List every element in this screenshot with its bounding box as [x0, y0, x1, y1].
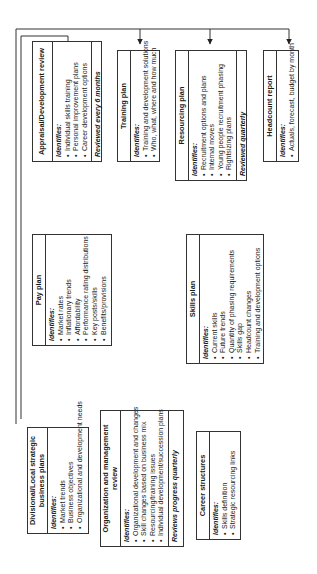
pay-plan-box: Pay plan Identifies: Market rates Inflat… [32, 234, 112, 346]
review-frequency: Reviewed quarterly [236, 51, 250, 180]
list-item: Internal moves [208, 55, 217, 176]
resourcing-plan-title: Resourcing plan [176, 51, 189, 180]
list-item: Actuals, forecast, budget by month [288, 55, 297, 157]
identifies-label: Identifies: [212, 436, 221, 535]
review-frequency: Reviews progress quarterly [168, 411, 182, 546]
org-review-title: Organization and management review [101, 411, 121, 546]
career-structures-title: Career structures [197, 432, 210, 539]
list-item: Skill changes based on business mix [140, 415, 149, 542]
review-frequency: Reviewed every 6 months [91, 42, 105, 161]
appraisal-review-title: Appraisal/Development review [33, 42, 53, 161]
list-item: Career development options [81, 46, 90, 157]
divisional-plans-box: Divisional/Local strategic business plan… [27, 427, 89, 534]
list-item: Headcount changes [245, 239, 254, 359]
divisional-plans-title: Divisional/Local strategic business plan… [28, 428, 48, 533]
headcount-report-title: Headcount report [264, 51, 277, 161]
identifies-label: Identifies: [123, 415, 132, 542]
list-item: Performance rating distributions [82, 239, 91, 341]
identifies-label: Identifies: [133, 55, 142, 157]
list-item: Skills definition [221, 436, 230, 535]
list-item: Strategic resourcing links [229, 436, 238, 535]
list-item: Rightsizing plans [225, 55, 234, 176]
identifies-label: Identifies: [202, 239, 211, 359]
career-structures-box: Career structures Identifies: Skills def… [196, 431, 241, 540]
org-review-box: Organization and management review Ident… [100, 410, 184, 547]
identifies-label: Identifies: [50, 432, 59, 529]
skills-plan-box: Skills plan Identifies: Current skills F… [186, 234, 264, 364]
list-item: Resourcing/training issues [149, 415, 158, 542]
list-item: Current skills [211, 239, 220, 359]
list-item: Quantity of phasing requirements [228, 239, 237, 359]
list-item: Organizational development and changes [132, 415, 141, 542]
list-item: Market trends [59, 432, 68, 529]
identifies-label: Identifies: [191, 55, 200, 176]
list-item: Young people recruitment phasing [217, 55, 226, 176]
list-item: Inflationary trends [65, 239, 74, 341]
list-item: Affordability [74, 239, 83, 341]
list-item: Market rates [57, 239, 66, 341]
training-plan-title: Training plan [118, 51, 131, 161]
list-item: Training and development options [254, 239, 263, 359]
list-item: Key posts/skills [91, 239, 100, 341]
identifies-label: Identifies: [48, 239, 57, 341]
hr-planning-flow-diagram: Divisional/Local strategic business plan… [0, 0, 317, 574]
appraisal-review-box: Appraisal/Development review Identifies:… [32, 41, 102, 162]
list-item: Who, what, where and how much [150, 55, 159, 157]
list-item: Individual development/succession plans [157, 415, 166, 542]
list-item: Business objectives [67, 432, 76, 529]
list-item: Benefits/provisions [100, 239, 109, 341]
list-item: Individual skills training [64, 46, 73, 157]
pay-plan-title: Pay plan [33, 235, 46, 345]
headcount-report-box: Headcount report Identifies: Actuals, fo… [263, 50, 299, 162]
skills-plan-title: Skills plan [187, 235, 200, 363]
list-item: Future trends [219, 239, 228, 359]
resourcing-plan-box: Resourcing plan Identifies: Recruitment … [175, 50, 247, 181]
list-item: Organizational and development needs [76, 432, 85, 529]
list-item: Training and development solutions [142, 55, 151, 157]
training-plan-box: Training plan Identifies: Training and d… [117, 50, 160, 162]
list-item: Personal improvement plans [72, 46, 81, 157]
identifies-label: Identifies: [279, 55, 288, 157]
identifies-label: Identifies: [55, 46, 64, 157]
list-item: Skills gap [236, 239, 245, 359]
list-item: Recruitment options and plans [200, 55, 209, 176]
